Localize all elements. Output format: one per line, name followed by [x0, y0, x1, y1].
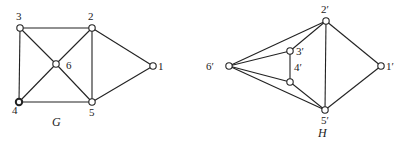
- vertex-label-g-6: 6: [66, 59, 72, 71]
- vertex-label-g-4: 4: [12, 104, 18, 116]
- vertex-h-3p: [287, 48, 293, 54]
- edge-g-5-1: [92, 66, 153, 102]
- graph-g-title: G: [52, 115, 61, 129]
- vertex-label-h-5p: 5′: [321, 114, 329, 126]
- edge-g-3-4: [19, 28, 20, 102]
- vertex-h-2p: [323, 18, 329, 24]
- edge-g-2-1: [92, 28, 153, 66]
- vertex-g-5: [89, 99, 95, 105]
- graph-h: 1′2′3′4′5′6′ H: [206, 3, 394, 140]
- edge-g-2-6: [56, 28, 92, 64]
- vertex-label-h-6p: 6′: [206, 60, 214, 72]
- vertex-label-h-4p: 4′: [294, 61, 302, 73]
- vertex-label-h-3p: 3′: [296, 45, 304, 57]
- vertex-h-1p: [378, 63, 384, 69]
- vertex-label-h-2p: 2′: [321, 3, 329, 15]
- graph-diagram-canvas: 123456 G 1′2′3′4′5′6′ H: [0, 0, 404, 142]
- vertex-label-g-1: 1: [158, 60, 164, 72]
- edge-h-6p-3p: [229, 51, 290, 66]
- edge-h-2p-1p: [326, 21, 381, 66]
- vertex-g-2: [89, 25, 95, 31]
- vertex-label-g-5: 5: [89, 106, 95, 118]
- edge-g-3-6: [20, 28, 56, 64]
- vertex-h-4p: [287, 79, 293, 85]
- edge-g-4-6: [19, 64, 56, 102]
- graph-g: 123456 G: [12, 10, 164, 129]
- edge-h-2p-5p: [325, 21, 326, 110]
- graph-h-edges: [229, 21, 381, 110]
- vertex-g-3: [17, 25, 23, 31]
- edge-h-6p-5p: [229, 66, 325, 110]
- vertex-g-6: [53, 61, 59, 67]
- edge-h-6p-2p: [229, 21, 326, 66]
- edge-g-6-5: [56, 64, 92, 102]
- edge-h-5p-1p: [325, 66, 381, 110]
- vertex-label-g-2: 2: [88, 10, 94, 22]
- graph-h-nodes: [226, 18, 384, 113]
- vertex-h-5p: [322, 107, 328, 113]
- graph-g-edges: [19, 28, 153, 102]
- vertex-h-6p: [226, 63, 232, 69]
- graph-g-nodes: [16, 25, 156, 105]
- vertex-label-g-3: 3: [16, 10, 22, 22]
- vertex-g-1: [150, 63, 156, 69]
- vertex-label-h-1p: 1′: [386, 60, 394, 72]
- graph-h-title: H: [317, 126, 328, 140]
